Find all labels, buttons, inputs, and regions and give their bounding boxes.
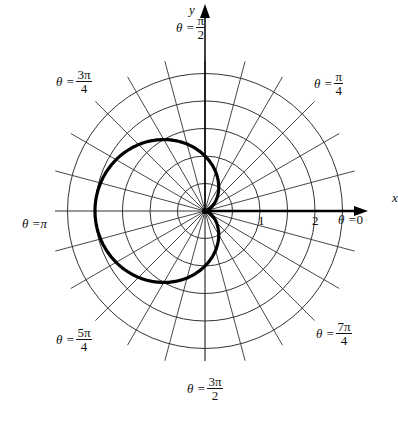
- polar-graph: y x 1 2 θ = π2 θ = π4 θ = 3π4 θ = π θ = …: [0, 0, 398, 422]
- angle-label-3pi-over-2: θ = 3π2: [187, 375, 223, 402]
- polar-grid-svg: [0, 0, 398, 422]
- angle-label-pi-over-2: θ = π2: [176, 14, 205, 41]
- x-axis-label: x: [392, 190, 398, 206]
- radial-tick-2: 2: [312, 213, 319, 229]
- angle-label-pi-over-4: θ = π4: [314, 70, 343, 97]
- angle-label-pi: θ = π: [22, 216, 47, 232]
- radial-tick-1: 1: [258, 213, 265, 229]
- angle-label-5pi-over-4: θ = 5π4: [56, 326, 92, 353]
- angle-label-0: θ = 0: [338, 212, 363, 228]
- angle-label-3pi-over-4: θ = 3π4: [56, 68, 92, 95]
- angle-label-7pi-over-4: θ = 7π4: [316, 320, 352, 347]
